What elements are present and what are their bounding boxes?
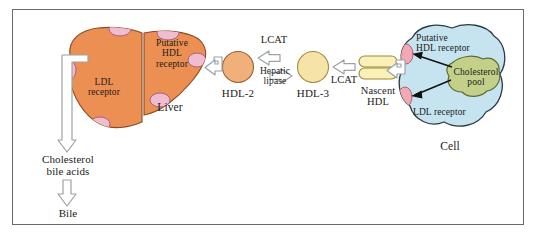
hepatic-lipase-label: Hepatic lipase xyxy=(252,66,298,87)
liver-putative-hdl-receptor-label: Putative HDL receptor xyxy=(141,38,203,69)
bile-label: Bile xyxy=(45,208,91,220)
cell-ldl-receptor-label: LDL receptor xyxy=(413,107,491,117)
arrow-hdl3-to-hdl2-lcat xyxy=(258,51,280,65)
cholesterol-bile-acids-label: Cholesterol bile acids xyxy=(23,154,113,178)
receptor-notch-icon xyxy=(109,22,131,36)
hdl2-particle xyxy=(223,52,254,83)
figure-root: LDL receptor Putative HDL receptor Liver… xyxy=(0,0,538,239)
hdl3-label: HDL-3 xyxy=(289,88,337,100)
cholesterol-pool-label: Cholesterol pool xyxy=(449,67,503,88)
arrow-hdl2-to-liver xyxy=(205,57,222,75)
lcat-right-label: LCAT xyxy=(322,74,366,85)
liver-ldl-receptor-label: LDL receptor xyxy=(68,77,140,98)
arrow-nascent-to-hdl3 xyxy=(333,60,355,74)
liver-label: Liver xyxy=(139,101,201,113)
nascent-hdl-disc-top xyxy=(359,56,397,67)
arrow-cholesterol-to-bile xyxy=(58,180,76,206)
nascent-hdl-label: Nascent HDL xyxy=(352,85,404,108)
receptor-notch-icon xyxy=(90,117,110,131)
lcat-upper-label: LCAT xyxy=(252,34,296,45)
cell-putative-hdl-receptor-label: Putative HDL receptor xyxy=(416,33,496,54)
hdl2-label: HDL-2 xyxy=(214,88,262,100)
cell-label: Cell xyxy=(424,140,476,152)
